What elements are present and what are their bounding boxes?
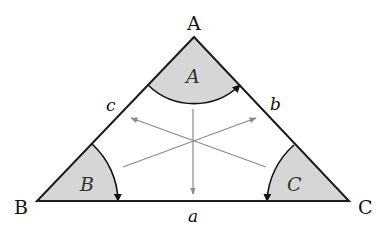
side-label-a: a — [188, 206, 198, 226]
angle-label-a: A — [184, 65, 200, 87]
center-arrow-up-left — [131, 118, 266, 167]
angle-label-b: B — [79, 173, 94, 195]
vertex-label-b: B — [14, 196, 28, 218]
angle-label-c: C — [287, 173, 302, 195]
angle-c-sector — [267, 145, 349, 201]
angle-b-sector — [37, 144, 118, 201]
vertex-label-a: A — [186, 12, 201, 34]
triangle-diagram: A B C a b c A B C — [0, 0, 385, 230]
side-label-c: c — [106, 95, 116, 115]
center-arrow-up-right — [123, 118, 256, 167]
side-label-b: b — [270, 94, 281, 114]
vertex-label-c: C — [358, 196, 373, 218]
